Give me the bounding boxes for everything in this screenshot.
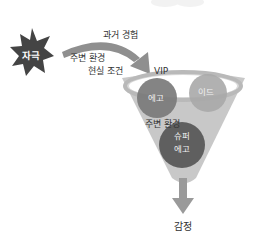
stimulus-label: 자극 (22, 51, 40, 61)
superego-label-line2: 에고 (174, 145, 190, 154)
top-decoration (151, 0, 204, 7)
funnel-top-label: VIP (154, 67, 168, 76)
emotion-funnel-diagram: 자극 과거 경험 주변 환경 현실 조건 VIP 에고 이드 주변 환경 슈퍼 … (0, 0, 261, 247)
down-arrow-icon (172, 178, 194, 214)
funnel-middle-label: 주변 환경 (145, 120, 180, 129)
input-label-past-experience: 과거 경험 (103, 31, 138, 40)
ego-label: 에고 (148, 94, 164, 103)
input-label-surroundings: 주변 환경 (70, 54, 105, 63)
output-emotion-label: 감정 (174, 222, 192, 232)
id-label: 이드 (198, 88, 214, 97)
superego-label-line1: 슈퍼 (174, 132, 190, 141)
input-label-reality-conditions: 현실 조건 (88, 67, 123, 76)
